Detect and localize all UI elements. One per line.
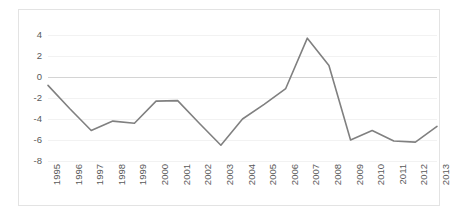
x-tick-label: 1997: [95, 164, 105, 185]
x-tick-label: 2010: [376, 164, 386, 185]
line-series-path: [48, 38, 437, 145]
x-tick-label: 2006: [290, 164, 300, 185]
x-tick-label: 2002: [203, 164, 213, 185]
x-tick-label: 1998: [117, 164, 127, 185]
x-tick-label: 2007: [311, 164, 321, 185]
x-tick-label: 2000: [160, 164, 170, 185]
x-tick-label: 1999: [138, 164, 148, 185]
y-axis-tick-labels: 420-2-4-6-8: [8, 35, 42, 161]
y-tick-label: -2: [8, 93, 42, 103]
plot-area: [48, 35, 437, 161]
x-tick-label: 1995: [52, 164, 62, 185]
y-tick-label: 4: [8, 30, 42, 40]
x-axis-tick-labels: 1995199619971998199920002001200220032004…: [48, 164, 437, 206]
y-tick-label: 0: [8, 72, 42, 82]
x-tick-label: 1996: [74, 164, 84, 185]
y-tick-label: -8: [8, 156, 42, 166]
x-tick-label: 2001: [182, 164, 192, 185]
x-tick-label: 2005: [268, 164, 278, 185]
y-tick-label: -4: [8, 114, 42, 124]
line-series-svg: [48, 35, 437, 161]
x-tick-label: 2011: [398, 164, 408, 184]
x-tick-label: 2004: [247, 164, 257, 185]
x-tick-label: 2009: [355, 164, 365, 185]
x-tick-label: 2013: [441, 164, 451, 185]
x-tick-label: 2003: [225, 164, 235, 185]
chart-figure: 420-2-4-6-8 1995199619971998199920002001…: [0, 0, 457, 218]
x-tick-label: 2008: [333, 164, 343, 185]
y-tick-label: 2: [8, 51, 42, 61]
y-tick-label: -6: [8, 135, 42, 145]
x-tick-label: 2012: [419, 164, 429, 185]
gridline--8: [48, 161, 437, 162]
